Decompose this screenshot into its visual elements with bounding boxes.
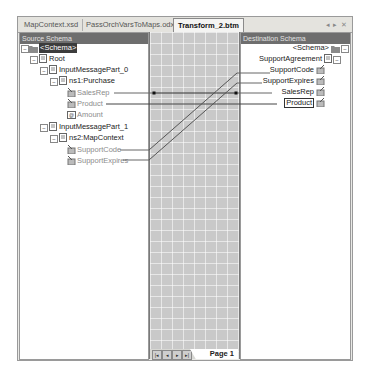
next-page-button[interactable]: ▸ bbox=[172, 350, 182, 360]
last-page-button[interactable]: ▸| bbox=[182, 350, 192, 360]
close-tab-icon[interactable]: ✕ bbox=[341, 19, 347, 30]
svg-text:@: @ bbox=[69, 112, 74, 118]
scroll-tabs-left-icon[interactable]: ◂ bbox=[326, 19, 330, 30]
collapse-icon[interactable]: − bbox=[30, 56, 38, 64]
tab-passorchvarstomaps-odx[interactable]: PassOrchVarsToMaps.odx* bbox=[82, 19, 181, 31]
source-node-ns1-purchase[interactable]: ns1:Purchase bbox=[69, 76, 115, 86]
field-element-icon bbox=[67, 99, 75, 108]
dest-node-salesrep[interactable]: SalesRep bbox=[281, 87, 314, 97]
mapper-grid[interactable] bbox=[149, 32, 240, 359]
collapse-icon[interactable]: − bbox=[21, 45, 29, 53]
field-element-icon bbox=[316, 98, 324, 107]
dest-node-supportagreement[interactable]: SupportAgreement bbox=[259, 54, 322, 64]
page-navigator: |◂ ◂ ▸ ▸| Page 1 bbox=[150, 349, 238, 359]
record-icon bbox=[49, 65, 57, 74]
collapse-icon[interactable]: − bbox=[50, 135, 58, 143]
folder-icon bbox=[331, 44, 339, 53]
field-element-icon bbox=[67, 145, 75, 154]
record-icon bbox=[59, 76, 67, 85]
tab-transform-2-btm[interactable]: Transform_2.btm bbox=[173, 18, 244, 33]
record-icon bbox=[324, 54, 332, 63]
source-node-ns2-mapcontext[interactable]: ns2:MapContext bbox=[69, 133, 124, 143]
field-element-icon bbox=[316, 76, 324, 85]
folder-icon bbox=[29, 44, 37, 53]
collapse-icon[interactable]: − bbox=[333, 56, 341, 64]
source-node-supportcode[interactable]: SupportCode bbox=[77, 145, 121, 155]
first-page-button[interactable]: |◂ bbox=[152, 350, 162, 360]
collapse-icon[interactable]: − bbox=[341, 45, 349, 53]
dest-node-supportcode[interactable]: SupportCode bbox=[270, 65, 314, 75]
source-node-amount[interactable]: Amount bbox=[77, 110, 103, 120]
record-icon bbox=[39, 54, 47, 63]
record-icon bbox=[49, 122, 57, 131]
scroll-tabs-right-icon[interactable]: ▸ bbox=[333, 19, 337, 30]
source-node-supportexpires[interactable]: SupportExpires bbox=[77, 156, 128, 166]
field-element-icon bbox=[67, 156, 75, 165]
field-element-icon bbox=[316, 87, 324, 96]
source-node-salesrep[interactable]: SalesRep bbox=[77, 88, 110, 98]
source-node-schema[interactable]: <Schema> bbox=[39, 43, 77, 53]
source-node-product[interactable]: Product bbox=[77, 99, 103, 109]
field-attribute-icon: @ bbox=[67, 110, 75, 119]
tab-mapcontext-xsd[interactable]: MapContext.xsd bbox=[20, 19, 83, 31]
collapse-icon[interactable]: − bbox=[50, 78, 58, 86]
record-icon bbox=[59, 133, 67, 142]
dest-node-product[interactable]: Product bbox=[284, 98, 314, 108]
source-node-inputmessagepart-0[interactable]: InputMessagePart_0 bbox=[59, 65, 128, 75]
page-tab[interactable]: Page 1 bbox=[190, 349, 238, 359]
collapse-icon[interactable]: − bbox=[40, 124, 48, 132]
source-node-root[interactable]: Root bbox=[49, 54, 65, 64]
field-element-icon bbox=[67, 88, 75, 97]
source-node-inputmessagepart-1[interactable]: InputMessagePart_1 bbox=[59, 122, 128, 132]
dest-node-schema[interactable]: <Schema> bbox=[293, 43, 329, 53]
dest-node-supportexpires[interactable]: SupportExpires bbox=[263, 76, 314, 86]
document-tab-bar: MapContext.xsd PassOrchVarsToMaps.odx* T… bbox=[18, 17, 352, 33]
prev-page-button[interactable]: ◂ bbox=[162, 350, 172, 360]
collapse-icon[interactable]: − bbox=[40, 67, 48, 75]
field-element-icon bbox=[316, 65, 324, 74]
